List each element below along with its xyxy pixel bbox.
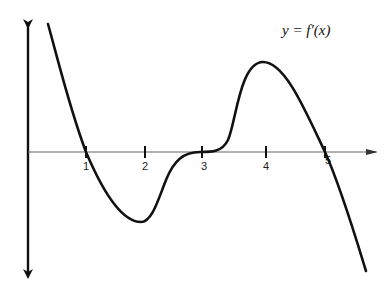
function-label: y = f′(x) [280,22,330,39]
tick-label-1: 1 [83,160,89,172]
chart: 1 2 3 4 5 y = f′(x) [0,0,387,291]
tick-label-4: 4 [263,160,269,172]
tick-label-3: 3 [201,160,207,172]
tick-label-2: 2 [142,160,148,172]
derivative-curve [48,24,366,271]
